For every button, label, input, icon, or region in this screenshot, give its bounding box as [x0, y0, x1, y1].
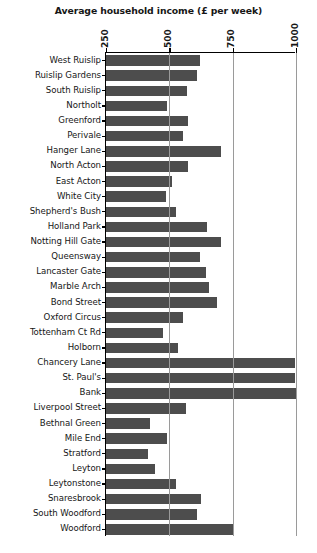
bar	[106, 403, 186, 414]
bar	[106, 464, 155, 475]
bar	[106, 101, 167, 112]
bar	[106, 343, 178, 354]
category-label: Greenford	[0, 115, 101, 125]
bar-row	[106, 295, 296, 310]
bar	[106, 222, 207, 233]
bar-rows	[106, 53, 296, 537]
category-label: Stratford	[0, 448, 101, 458]
category-label: Lancaster Gate	[0, 266, 101, 276]
bar-row	[106, 129, 296, 144]
bar-row	[106, 265, 296, 280]
bar	[106, 479, 176, 490]
x-tick-label-1000: 1000	[291, 23, 300, 48]
category-label: Ruislip Gardens	[0, 70, 101, 80]
category-label: Liverpool Street	[0, 402, 101, 412]
bar	[106, 494, 201, 505]
bar	[106, 161, 188, 172]
x-tickmark-250	[106, 48, 107, 53]
category-label: Shepherd's Bush	[0, 206, 101, 216]
category-label: Woodford	[0, 523, 101, 533]
x-tickmark-500	[169, 48, 170, 53]
bar-row	[106, 144, 296, 159]
bar	[106, 433, 167, 444]
bar	[106, 146, 221, 157]
bar	[106, 207, 176, 218]
bar	[106, 388, 296, 399]
y-axis-category-labels: West RuislipRuislip GardensSouth Ruislip…	[0, 52, 101, 536]
bar	[106, 70, 197, 81]
category-label: Holborn	[0, 342, 101, 352]
bar-row	[106, 53, 296, 68]
bar	[106, 297, 217, 308]
bar	[106, 86, 187, 97]
bar-row	[106, 68, 296, 83]
bar-row	[106, 492, 296, 507]
bar	[106, 191, 166, 202]
category-label: Marble Arch	[0, 281, 101, 291]
bar	[106, 358, 295, 369]
category-label: Hanger Lane	[0, 145, 101, 155]
bar-row	[106, 461, 296, 476]
gridline-1000	[296, 53, 297, 536]
category-label: Chancery Lane	[0, 357, 101, 367]
bar	[106, 418, 150, 429]
x-tickmark-1000	[296, 48, 297, 53]
gridline-500	[169, 53, 170, 536]
bar-row	[106, 522, 296, 537]
bar	[106, 449, 148, 460]
bar	[106, 131, 183, 142]
category-label: East Acton	[0, 176, 101, 186]
chart-title: Average household income (£ per week)	[0, 5, 317, 16]
bar	[106, 237, 221, 248]
category-label: Notting Hill Gate	[0, 236, 101, 246]
category-label: Perivale	[0, 130, 101, 140]
bar	[106, 282, 209, 293]
bar-row	[106, 204, 296, 219]
bar-row	[106, 477, 296, 492]
bar-row	[106, 356, 296, 371]
bar-row	[106, 83, 296, 98]
bar-row	[106, 159, 296, 174]
bar-row	[106, 340, 296, 355]
bar-row	[106, 98, 296, 113]
bar-row	[106, 446, 296, 461]
category-label: North Acton	[0, 160, 101, 170]
category-label: Mile End	[0, 433, 101, 443]
bar	[106, 176, 172, 187]
category-label: Tottenham Ct Rd	[0, 327, 101, 337]
category-label: Northolt	[0, 100, 101, 110]
category-label: Oxford Circus	[0, 312, 101, 322]
category-label: Bethnal Green	[0, 418, 101, 428]
plot-area	[105, 52, 295, 536]
bar	[106, 252, 200, 263]
bar-row	[106, 219, 296, 234]
bar	[106, 509, 197, 520]
bar	[106, 312, 183, 323]
x-tick-label-500: 500	[164, 29, 173, 48]
x-tickmark-750	[233, 48, 234, 53]
bar-row	[106, 235, 296, 250]
bar	[106, 116, 188, 127]
bar-row	[106, 386, 296, 401]
x-tick-label-250: 250	[101, 29, 110, 48]
bar-row	[106, 401, 296, 416]
category-label: Bank	[0, 387, 101, 397]
bar-row	[106, 114, 296, 129]
category-label: Bond Street	[0, 297, 101, 307]
bar-row	[106, 507, 296, 522]
x-tick-label-750: 750	[227, 29, 236, 48]
bar-row	[106, 325, 296, 340]
bar-row	[106, 189, 296, 204]
bar	[106, 373, 295, 384]
category-label: Snaresbrook	[0, 493, 101, 503]
category-label: South Woodford	[0, 508, 101, 518]
category-label: West Ruislip	[0, 55, 101, 65]
bar-row	[106, 250, 296, 265]
category-label: Leytonstone	[0, 478, 101, 488]
category-label: South Ruislip	[0, 85, 101, 95]
category-label: Leyton	[0, 463, 101, 473]
category-label: White City	[0, 191, 101, 201]
category-label: Holland Park	[0, 221, 101, 231]
bar-row	[106, 431, 296, 446]
bar-row	[106, 416, 296, 431]
